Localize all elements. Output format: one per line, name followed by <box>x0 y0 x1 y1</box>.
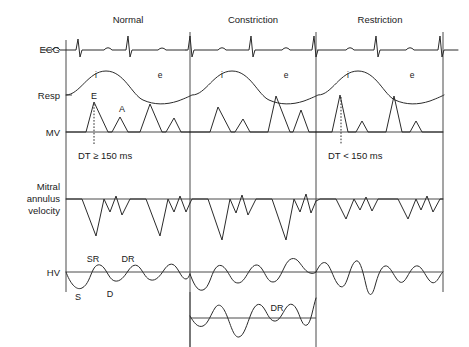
mv-row: E A DT ≥ 150 ms DT < 150 ms <box>66 91 443 161</box>
row-label-mav-line1: Mitral <box>37 181 60 192</box>
mv-trace-normal <box>66 102 190 132</box>
waveform-svg: Normal Constriction Restriction ECG Resp… <box>0 0 469 347</box>
ecg-row <box>42 36 458 57</box>
mv-dt-label-restriction: DT < 150 ms <box>328 150 383 161</box>
resp-label-expiration-constriction: e <box>284 70 289 80</box>
mv-label-e-wave: E <box>91 91 97 101</box>
hv-trace-constriction-upper <box>190 259 316 291</box>
resp-label-inspiration-restriction: i <box>347 70 349 80</box>
column-header-restriction: Restriction <box>358 14 403 25</box>
hv-label-s-normal: S <box>75 292 81 302</box>
row-label-resp: Resp <box>38 90 60 101</box>
resp-label-expiration-restriction: e <box>410 70 415 80</box>
row-label-mav-line3: velocity <box>28 205 60 216</box>
mav-trace-constriction <box>190 194 316 240</box>
mav-trace-normal <box>66 196 190 236</box>
hv-label-dr-lower: DR <box>271 303 284 313</box>
hv-label-d-normal: D <box>107 289 114 299</box>
ecg-trace-normal <box>42 36 186 57</box>
waveform-figure: Normal Constriction Restriction ECG Resp… <box>0 0 469 347</box>
hv-label-dr-normal: DR <box>122 254 135 264</box>
mv-dt-label-normal: DT ≥ 150 ms <box>78 150 132 161</box>
hv-label-sr-normal: SR <box>87 254 100 264</box>
hv-trace-normal <box>66 264 190 288</box>
resp-trace <box>66 71 444 104</box>
column-header-normal: Normal <box>113 14 144 25</box>
hv-trace-restriction <box>316 261 443 295</box>
mitral-annulus-velocity-row <box>66 194 443 240</box>
ecg-trace-restriction <box>318 36 458 57</box>
resp-label-inspiration-normal: i <box>95 70 97 80</box>
column-header-constriction: Constriction <box>228 14 278 25</box>
resp-row: i e i e i e <box>66 70 444 104</box>
resp-label-inspiration-constriction: i <box>221 70 223 80</box>
ecg-trace-constriction <box>186 36 318 57</box>
mv-trace-constriction <box>190 96 316 132</box>
row-label-mav-line2: annulus <box>27 193 61 204</box>
row-label-mv: MV <box>46 127 61 138</box>
mv-label-a-wave: A <box>119 104 125 114</box>
row-label-hv: HV <box>47 267 61 278</box>
mv-trace-restriction <box>316 95 443 132</box>
resp-label-expiration-normal: e <box>158 70 163 80</box>
hv-row: SR DR S D DR <box>66 254 443 347</box>
